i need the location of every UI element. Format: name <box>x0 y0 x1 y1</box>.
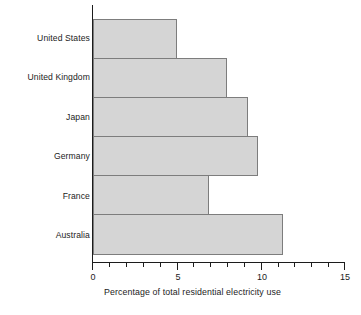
category-label-0: United States <box>37 33 90 43</box>
horizontal-bar-chart: United States United Kingdom Japan Germa… <box>0 0 361 315</box>
x-tick-3 <box>143 263 144 267</box>
bar-united-kingdom <box>93 58 227 98</box>
x-tick-5 <box>177 263 178 270</box>
x-tick-15 <box>344 263 345 270</box>
category-label-4: France <box>63 191 90 201</box>
category-label-5: Australia <box>56 230 90 240</box>
x-tick-label-0: 0 <box>90 272 95 283</box>
x-tick-label-5: 5 <box>175 272 180 283</box>
x-axis-title-text: Percentage of total residential electric… <box>80 287 281 297</box>
bar-australia <box>93 214 283 255</box>
bar-germany <box>93 136 258 176</box>
bar-japan <box>93 97 248 137</box>
x-axis-title: Percentage of total residential electric… <box>0 287 361 297</box>
x-tick-0 <box>92 263 93 270</box>
x-tick-14 <box>328 263 329 267</box>
plot-area <box>93 19 345 255</box>
x-tick-label-15: 15 <box>340 272 350 283</box>
x-tick-12 <box>294 263 295 267</box>
x-tick-7 <box>210 263 211 267</box>
category-label-2: Japan <box>66 112 90 122</box>
x-tick-11 <box>278 263 279 267</box>
x-tick-9 <box>244 263 245 267</box>
bar-united-states <box>93 19 177 59</box>
x-tick-label-10: 10 <box>257 272 267 283</box>
x-tick-2 <box>126 263 127 267</box>
x-tick-8 <box>227 263 228 267</box>
x-tick-10 <box>261 263 262 270</box>
y-axis-line <box>92 5 93 262</box>
category-label-1: United Kingdom <box>27 72 90 82</box>
x-tick-1 <box>109 263 110 267</box>
x-axis-line <box>92 262 345 263</box>
bar-france <box>93 175 209 215</box>
x-tick-6 <box>193 263 194 267</box>
category-label-3: Germany <box>54 151 90 161</box>
x-tick-13 <box>311 263 312 267</box>
x-tick-4 <box>160 263 161 267</box>
